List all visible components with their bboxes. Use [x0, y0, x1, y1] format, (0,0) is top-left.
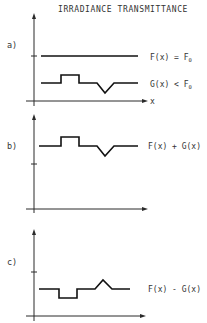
x-axis-arrow-b — [142, 207, 148, 211]
y-axis-arrow-b — [32, 114, 36, 120]
curve-f-minus-g — [39, 280, 130, 298]
irradiance-transmittance-diagram: IRRADIANCE TRANSMITTANCE a) x F(x) = F0 … — [0, 0, 207, 323]
x-axis-label: x — [150, 97, 155, 106]
header-title: IRRADIANCE TRANSMITTANCE — [58, 5, 188, 14]
curve-g — [41, 75, 138, 93]
curve-label-f-plus-g: F(x) + G(x) — [148, 142, 201, 151]
curve-f-plus-g — [39, 137, 138, 156]
curve-label-f: F(x) = F0 — [150, 53, 192, 63]
panel-label-a: a) — [7, 40, 17, 50]
panel-b: b) F(x) + G(x) — [7, 114, 201, 213]
curve-label-g: G(x) < F0 — [150, 80, 192, 90]
x-axis-arrow-a — [142, 99, 148, 103]
panel-label-b: b) — [7, 141, 17, 151]
y-axis-arrow-c — [32, 229, 36, 235]
x-axis-arrow-c — [140, 314, 146, 318]
panel-c: c) F(x) - G(x) — [7, 229, 201, 321]
y-axis-arrow-a — [32, 13, 36, 19]
panel-label-c: c) — [7, 257, 17, 267]
panel-a: a) x F(x) = F0 G(x) < F0 — [7, 13, 192, 106]
curve-label-f-minus-g: F(x) - G(x) — [148, 285, 201, 294]
